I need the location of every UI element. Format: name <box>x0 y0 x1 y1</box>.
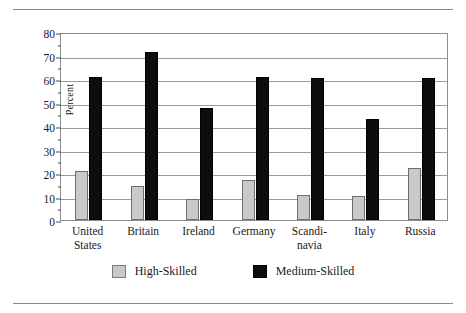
legend-item: Medium-Skilled <box>253 264 355 279</box>
bar-medium-skilled <box>89 77 102 220</box>
bar-series-container <box>61 34 447 220</box>
top-rule <box>13 9 453 10</box>
legend-label: High-Skilled <box>135 264 197 279</box>
bar-group <box>242 34 269 220</box>
bar-group <box>408 34 435 220</box>
bar-medium-skilled <box>256 77 269 220</box>
bar-group <box>75 34 102 220</box>
legend-label: Medium-Skilled <box>276 264 355 279</box>
bar-group <box>297 34 324 220</box>
bar-medium-skilled <box>311 78 324 220</box>
bar-high-skilled <box>186 199 199 220</box>
x-axis-labels: United StatesBritainIrelandGermanyScandi… <box>60 224 448 258</box>
x-axis-label: United States <box>60 224 115 252</box>
y-tick-label: 10 <box>44 193 56 205</box>
x-axis-label: Italy <box>337 224 392 238</box>
y-tick-label: 80 <box>44 28 56 40</box>
x-axis-label: Russia <box>393 224 448 238</box>
plot-area: Percent 01020304050607080 <box>60 33 448 221</box>
bar-high-skilled <box>242 180 255 220</box>
y-tick-label: 50 <box>44 99 56 111</box>
bar-medium-skilled <box>145 52 158 220</box>
x-axis-label: Scandi- navia <box>282 224 337 252</box>
y-tick-mark <box>56 222 61 223</box>
bar-medium-skilled <box>366 119 379 220</box>
y-tick-label: 70 <box>44 52 56 64</box>
bottom-rule <box>13 303 453 304</box>
bar-high-skilled <box>352 196 365 220</box>
x-axis-label: Britain <box>115 224 170 238</box>
y-tick-label: 30 <box>44 146 56 158</box>
x-axis-label: Germany <box>226 224 281 238</box>
x-axis-label: Ireland <box>171 224 226 238</box>
bar-high-skilled <box>131 186 144 220</box>
y-tick-label: 20 <box>44 169 56 181</box>
bar-group <box>131 34 158 220</box>
legend-item: High-Skilled <box>112 264 197 279</box>
y-tick-label: 60 <box>44 75 56 87</box>
legend-swatch-high-skilled-icon <box>112 265 126 278</box>
bar-high-skilled <box>297 195 310 220</box>
legend-swatch-medium-skilled-icon <box>253 265 267 278</box>
y-tick-label: 0 <box>49 216 55 228</box>
bar-medium-skilled <box>422 78 435 220</box>
bar-high-skilled <box>75 171 88 220</box>
chart-legend: High-SkilledMedium-Skilled <box>0 264 466 279</box>
bar-group <box>352 34 379 220</box>
bar-high-skilled <box>408 168 421 220</box>
chart-figure: Percent 01020304050607080 United StatesB… <box>0 0 466 313</box>
bar-medium-skilled <box>200 108 213 220</box>
y-tick-label: 40 <box>44 122 56 134</box>
bar-group <box>186 34 213 220</box>
